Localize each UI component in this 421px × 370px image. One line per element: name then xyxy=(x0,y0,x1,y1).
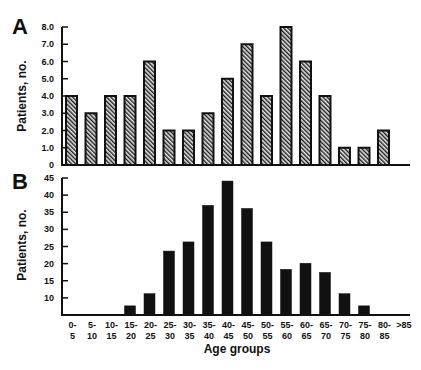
panel-a-bar xyxy=(203,113,214,165)
panel-b-bar xyxy=(203,205,214,315)
panel-a-bar xyxy=(125,96,136,165)
panel-b-bar xyxy=(125,306,136,315)
panel-b-bar xyxy=(281,269,292,315)
panel-a-bar xyxy=(86,113,97,165)
panel-b-y-tick-label: 35 xyxy=(44,207,54,217)
panel-b-bar xyxy=(300,263,311,315)
x-tick-label: 15- xyxy=(124,320,137,330)
x-tick-label: 60 xyxy=(282,331,292,341)
panel-b-bar xyxy=(183,242,194,315)
x-tick-label: 0- xyxy=(68,320,76,330)
x-tick-label: 10 xyxy=(87,331,97,341)
panel-b-y-axis-title: Patients, no. xyxy=(15,209,29,280)
panel-a-bar xyxy=(164,131,175,166)
panel-b-bar xyxy=(222,181,233,315)
x-tick-label: 75- xyxy=(358,320,371,330)
panel-a-y-tick-label: 6.0 xyxy=(41,57,54,67)
panel-b-plot: 1015202530354045 xyxy=(44,173,410,315)
panel-a-bar xyxy=(300,62,311,166)
panel-a-bar xyxy=(320,96,331,165)
panel-b-y-tick-label: 20 xyxy=(44,259,54,269)
panel-a-y-tick-label: 4.0 xyxy=(41,91,54,101)
panel-a-bar xyxy=(261,96,272,165)
x-tick-label: 65 xyxy=(301,331,311,341)
panel-b-y-tick-label: 25 xyxy=(44,242,54,252)
x-tick-label: 5- xyxy=(88,320,96,330)
x-tick-label: 55 xyxy=(262,331,272,341)
panel-b-bar xyxy=(339,294,350,315)
x-tick-label: 85 xyxy=(379,331,389,341)
x-tick-label: >85 xyxy=(396,320,411,330)
x-tick-label: 30 xyxy=(165,331,175,341)
panel-b-bar xyxy=(261,242,272,315)
x-tick-labels: 0-55-1010-1515-2020-2525-3030-3535-4040-… xyxy=(68,320,411,341)
panel-a-bar xyxy=(222,79,233,165)
panel-b-y-tick-label: 30 xyxy=(44,224,54,234)
panel-a-bar xyxy=(144,62,155,166)
x-tick-label: 80 xyxy=(360,331,370,341)
x-tick-label: 35 xyxy=(184,331,194,341)
x-tick-label: 50 xyxy=(243,331,253,341)
chart-figure: A Patients, no. 01.02.03.04.05.06.07.08.… xyxy=(0,0,421,370)
x-tick-label: 40- xyxy=(222,320,235,330)
panel-a-y-tick-label: 0 xyxy=(49,160,54,170)
x-tick-label: 5 xyxy=(70,331,75,341)
panel-a-plot: 01.02.03.04.05.06.07.08.0 xyxy=(41,22,410,170)
x-tick-label: 55- xyxy=(280,320,293,330)
panel-b-bar xyxy=(359,306,370,315)
panel-b-label: B xyxy=(12,169,28,194)
x-tick-label: 35- xyxy=(202,320,215,330)
panel-a-y-tick-label: 2.0 xyxy=(41,126,54,136)
x-tick-label: 45 xyxy=(223,331,233,341)
panel-a-y-tick-label: 5.0 xyxy=(41,74,54,84)
x-tick-label: 30- xyxy=(183,320,196,330)
panel-a-bar xyxy=(242,44,253,165)
panel-a-bar xyxy=(339,148,350,165)
panel-a-y-axis-title: Patients, no. xyxy=(15,60,29,131)
x-tick-label: 25- xyxy=(163,320,176,330)
x-tick-label: 20- xyxy=(144,320,157,330)
panel-a-bar xyxy=(183,131,194,166)
panel-a-y-tick-label: 8.0 xyxy=(41,22,54,32)
x-tick-label: 50- xyxy=(261,320,274,330)
x-tick-label: 15 xyxy=(106,331,116,341)
x-tick-label: 60- xyxy=(300,320,313,330)
panel-a-y-tick-label: 3.0 xyxy=(41,108,54,118)
x-tick-label: 25 xyxy=(145,331,155,341)
panel-b-bar xyxy=(320,272,331,315)
panel-a-y-tick-label: 7.0 xyxy=(41,39,54,49)
panel-b-y-tick-label: 40 xyxy=(44,190,54,200)
x-tick-label: 70- xyxy=(339,320,352,330)
panel-b-y-tick-label: 15 xyxy=(44,276,54,286)
panel-a-bar xyxy=(378,131,389,166)
panel-b-bar xyxy=(164,251,175,315)
x-tick-label: 20 xyxy=(126,331,136,341)
x-tick-label: 10- xyxy=(105,320,118,330)
panel-b-bar xyxy=(242,208,253,315)
panel-a-label: A xyxy=(12,14,28,39)
x-tick-label: 70 xyxy=(321,331,331,341)
panel-a-bar xyxy=(105,96,116,165)
x-tick-label: 75 xyxy=(340,331,350,341)
panel-a-y-tick-label: 1.0 xyxy=(41,143,54,153)
panel-b-bar xyxy=(144,294,155,315)
panel-a-bar xyxy=(281,27,292,165)
panel-a-bar xyxy=(359,148,370,165)
x-tick-label: 40 xyxy=(204,331,214,341)
x-tick-label: 45- xyxy=(241,320,254,330)
x-tick-label: 80- xyxy=(378,320,391,330)
panel-b-y-tick-label: 10 xyxy=(44,293,54,303)
panel-b-y-tick-label: 45 xyxy=(44,173,54,183)
x-axis-title: Age groups xyxy=(204,342,271,356)
x-tick-label: 65- xyxy=(319,320,332,330)
